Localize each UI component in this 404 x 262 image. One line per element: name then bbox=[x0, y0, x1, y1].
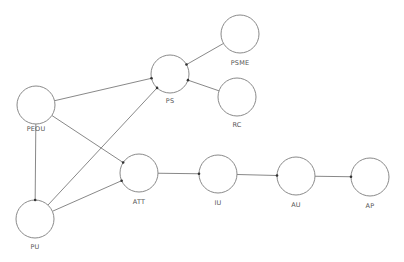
arrowhead-icon bbox=[185, 63, 188, 66]
node-ap[interactable] bbox=[351, 158, 389, 196]
node-label-pu: PU bbox=[30, 244, 39, 251]
edge-rc-to-ps bbox=[188, 80, 219, 91]
edge-peou-to-ps bbox=[55, 78, 152, 100]
node-label-ps: PS bbox=[166, 98, 174, 105]
arrowhead-icon bbox=[122, 161, 125, 164]
node-pu[interactable] bbox=[16, 200, 54, 238]
edge-peou-to-pu bbox=[35, 124, 36, 200]
arrowhead-icon bbox=[120, 179, 123, 182]
path-diagram-canvas bbox=[0, 0, 404, 262]
node-label-au: AU bbox=[291, 202, 301, 209]
edge-pu-to-att bbox=[52, 181, 121, 212]
node-iu[interactable] bbox=[199, 155, 237, 193]
node-peou[interactable] bbox=[17, 86, 55, 124]
nodes-layer bbox=[16, 15, 389, 238]
node-label-psme: PSME bbox=[231, 60, 250, 67]
edge-att-to-iu bbox=[158, 173, 199, 174]
node-att[interactable] bbox=[120, 154, 158, 192]
arrowhead-icon bbox=[156, 87, 159, 90]
arrowhead-icon bbox=[150, 77, 153, 80]
node-label-att: ATT bbox=[133, 199, 145, 206]
edge-peou-to-att bbox=[52, 115, 123, 162]
arrowhead-icon bbox=[187, 79, 190, 82]
node-label-iu: IU bbox=[214, 200, 221, 207]
arrowhead-icon bbox=[350, 175, 353, 178]
node-label-rc: RC bbox=[232, 122, 241, 129]
node-au[interactable] bbox=[277, 157, 315, 195]
node-label-peou: PEOU bbox=[27, 126, 46, 133]
arrowhead-icon bbox=[34, 199, 37, 202]
node-label-ap: AP bbox=[366, 203, 375, 210]
node-psme[interactable] bbox=[221, 15, 259, 53]
edge-iu-to-au bbox=[237, 174, 277, 175]
edge-psme-to-ps bbox=[187, 43, 224, 64]
node-rc[interactable] bbox=[218, 78, 256, 116]
arrowhead-icon bbox=[276, 174, 279, 177]
arrowhead-icon bbox=[198, 172, 201, 175]
